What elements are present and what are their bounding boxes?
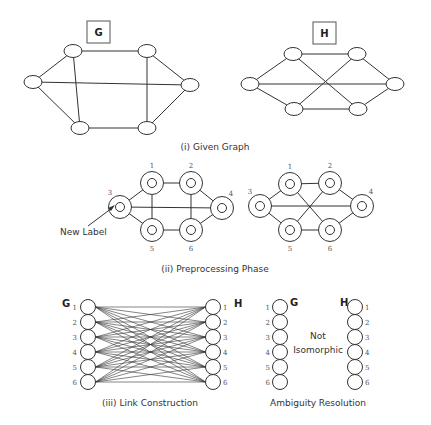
h-node bbox=[348, 300, 363, 315]
panel-preprocessing: 123456 123456 New Label (ii) Preprocessi… bbox=[60, 162, 374, 274]
g-node bbox=[273, 315, 288, 330]
h-node bbox=[206, 345, 221, 360]
h-node bbox=[348, 315, 363, 330]
node-number: 5 bbox=[150, 245, 154, 253]
edge bbox=[120, 207, 222, 208]
node-number: 6 bbox=[189, 245, 194, 253]
g-node-number: 3 bbox=[266, 334, 270, 342]
new-label-annotation: New Label bbox=[60, 227, 107, 237]
panel-ambiguity-resolution: 112233445566 G H Not Isomorphic Ambiguit… bbox=[266, 297, 370, 408]
graph-node bbox=[284, 48, 302, 61]
h-node bbox=[348, 330, 363, 345]
node-number: 4 bbox=[369, 188, 374, 196]
h-node-number: 4 bbox=[365, 349, 370, 357]
ambiguity-g-label: G bbox=[290, 297, 298, 308]
h-node-number: 6 bbox=[223, 379, 228, 387]
h-node-number: 4 bbox=[223, 349, 228, 357]
caption-preprocessing: (ii) Preprocessing Phase bbox=[161, 264, 269, 274]
g-node-number: 3 bbox=[73, 334, 77, 342]
link-h-label: H bbox=[234, 298, 242, 309]
g-node bbox=[81, 315, 96, 330]
g-node-number: 6 bbox=[73, 379, 78, 387]
g-node bbox=[273, 300, 288, 315]
node-inner-label bbox=[286, 226, 295, 235]
graph-node bbox=[138, 122, 156, 135]
g-node bbox=[81, 375, 96, 390]
g-node-number: 4 bbox=[73, 349, 78, 357]
graph-g-label: G bbox=[94, 27, 102, 38]
h-node-number: 5 bbox=[223, 364, 227, 372]
link-g-label: G bbox=[62, 298, 70, 309]
edge bbox=[147, 85, 190, 128]
h-node bbox=[348, 345, 363, 360]
node-inner-label bbox=[148, 179, 157, 188]
h-node bbox=[206, 375, 221, 390]
graph-g-preprocessed: 123456 bbox=[108, 162, 234, 253]
edge bbox=[33, 82, 80, 128]
node-number: 3 bbox=[248, 188, 252, 196]
g-node bbox=[81, 300, 96, 315]
node-inner-label bbox=[187, 226, 196, 235]
h-node bbox=[206, 360, 221, 375]
graph-node bbox=[71, 122, 89, 135]
g-node bbox=[273, 345, 288, 360]
node-number: 2 bbox=[189, 162, 193, 170]
caption-given-graph: (i) Given Graph bbox=[181, 142, 250, 152]
node-number: 6 bbox=[328, 245, 333, 253]
graph-node bbox=[349, 103, 367, 116]
result-isomorphic: Isomorphic bbox=[293, 345, 343, 355]
graph-h-preprocessed: 123456 bbox=[248, 162, 374, 253]
graph-h-label: H bbox=[320, 28, 328, 39]
node-inner-label bbox=[218, 204, 227, 213]
node-inner-label bbox=[286, 180, 295, 189]
h-node-number: 6 bbox=[365, 379, 370, 387]
g-node-number: 5 bbox=[73, 364, 77, 372]
node-number: 3 bbox=[108, 189, 112, 197]
edge bbox=[73, 51, 80, 128]
h-node-number: 1 bbox=[223, 304, 227, 312]
graph-node bbox=[64, 45, 82, 58]
g-node-number: 6 bbox=[266, 379, 271, 387]
h-node bbox=[206, 330, 221, 345]
ambiguity-h-label: H bbox=[340, 297, 348, 308]
node-inner-label bbox=[187, 179, 196, 188]
graph-node bbox=[386, 78, 404, 91]
graph-isomorphism-diagram: G H (i) Given Graph 123456 123456 New La… bbox=[0, 0, 431, 425]
node-inner-label bbox=[358, 202, 367, 211]
node-inner-label bbox=[116, 203, 125, 212]
node-inner-label bbox=[326, 226, 335, 235]
g-node bbox=[273, 330, 288, 345]
node-number: 4 bbox=[229, 190, 234, 198]
g-node-number: 5 bbox=[266, 364, 270, 372]
h-node bbox=[206, 315, 221, 330]
h-node-number: 5 bbox=[365, 364, 369, 372]
g-node bbox=[81, 345, 96, 360]
graph-node bbox=[138, 45, 156, 58]
g-node bbox=[81, 360, 96, 375]
h-node bbox=[206, 300, 221, 315]
graph-node bbox=[181, 79, 199, 92]
g-node bbox=[81, 330, 96, 345]
h-node-number: 2 bbox=[223, 319, 227, 327]
g-node-number: 1 bbox=[73, 304, 77, 312]
h-node bbox=[348, 375, 363, 390]
graph-h-given bbox=[241, 48, 404, 116]
graph-g-given bbox=[24, 45, 199, 135]
node-number: 1 bbox=[150, 162, 154, 170]
g-node-number: 2 bbox=[266, 319, 270, 327]
new-label-arrow bbox=[88, 208, 112, 226]
bipartite-links bbox=[96, 307, 206, 382]
h-node-number: 2 bbox=[365, 319, 369, 327]
panel-given-graph: G H (i) Given Graph bbox=[24, 21, 404, 152]
caption-link-construction: (iii) Link Construction bbox=[102, 398, 198, 408]
graph-node bbox=[348, 48, 366, 61]
node-inner-label bbox=[326, 179, 335, 188]
g-node bbox=[273, 375, 288, 390]
caption-ambiguity-resolution: Ambiguity Resolution bbox=[270, 398, 366, 408]
graph-node bbox=[285, 103, 303, 116]
h-node-number: 1 bbox=[365, 304, 369, 312]
graph-node bbox=[241, 78, 259, 91]
g-node-number: 4 bbox=[266, 349, 271, 357]
h-node-number: 3 bbox=[223, 334, 227, 342]
panel-link-construction: 112233445566 G H (iii) Link Construction bbox=[62, 298, 242, 408]
